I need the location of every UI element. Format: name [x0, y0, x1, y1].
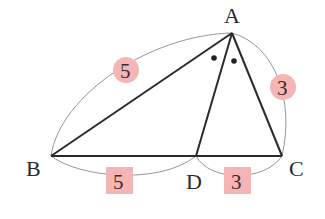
triangle-diagram: A B C D 5 3 5 3 — [0, 0, 325, 219]
length-value-dc: 3 — [231, 170, 242, 194]
vertex-label-b: B — [26, 156, 41, 181]
vertex-label-d: D — [186, 169, 202, 194]
length-value-ab: 5 — [120, 59, 131, 83]
segment-ad — [196, 33, 232, 156]
vertex-label-a: A — [224, 3, 240, 28]
length-value-bd: 5 — [113, 170, 124, 194]
vertex-label-c: C — [289, 156, 304, 181]
length-value-ac: 3 — [277, 76, 288, 100]
angle-mark-dot-right — [231, 58, 237, 64]
segment-ab — [51, 33, 232, 156]
angle-mark-dot-left — [211, 55, 217, 61]
